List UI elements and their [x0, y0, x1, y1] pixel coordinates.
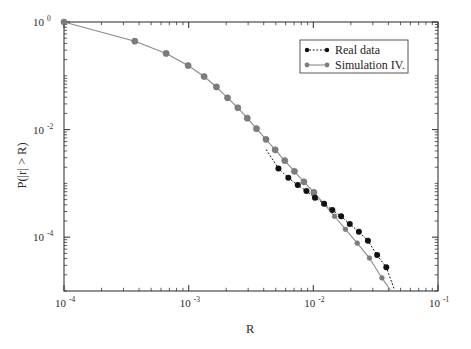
legend-group: Real dataSimulation IV. [300, 40, 408, 73]
sim-data-point [61, 19, 67, 25]
real-data-point [374, 252, 380, 258]
real-data-point [295, 182, 301, 188]
real-data-point [312, 195, 318, 201]
log-log-survival-plot: 10-410-310-210-110010-210-4 RP(|r| > R) … [0, 0, 471, 349]
sim-data-point [244, 115, 250, 121]
svg-text:10: 10 [180, 297, 192, 309]
sim-data-point [282, 158, 288, 164]
svg-text:10: 10 [429, 297, 441, 309]
y-axis-title: P(|r| > R) [15, 142, 29, 188]
real-data-point [338, 213, 344, 219]
sim-data-point [235, 105, 241, 111]
y-tick-label: 100 [33, 14, 51, 28]
sim-data-point [311, 189, 317, 195]
x-tick-label: 10-4 [55, 295, 75, 309]
svg-text:10: 10 [304, 297, 316, 309]
real-data-point [303, 188, 309, 194]
real-data-point [321, 201, 327, 207]
sim-data-point [263, 136, 269, 142]
svg-text:-4: -4 [69, 295, 75, 304]
sim-data-point [185, 62, 191, 68]
sim-data-point [332, 214, 337, 219]
svg-text:-2: -2 [318, 295, 324, 304]
y-tick-label: 10-2 [33, 122, 53, 136]
svg-text:-1: -1 [443, 295, 449, 304]
real-data-point [365, 238, 371, 244]
x-tick-label: 10-2 [304, 295, 324, 309]
x-tick-label: 10-3 [180, 295, 200, 309]
svg-text:10: 10 [55, 297, 67, 309]
sim-data-point [380, 276, 385, 281]
x-tick-label: 10-1 [429, 295, 449, 309]
real-data-point [356, 229, 362, 235]
svg-text:10: 10 [33, 16, 45, 28]
sim-data-point [272, 147, 278, 153]
svg-text:10: 10 [33, 124, 45, 136]
sim-data-point [291, 168, 297, 174]
sim-data-point [132, 38, 138, 44]
sim-data-point [201, 73, 207, 79]
axis-titles-group: RP(|r| > R) [15, 142, 255, 336]
real-data-point [329, 207, 335, 213]
sim-data-point [224, 95, 230, 101]
real-data-point [383, 264, 389, 270]
real-data-point [285, 175, 291, 181]
sim-data-point [367, 256, 372, 261]
sim-data-point [253, 126, 259, 132]
sim-data-point [343, 227, 348, 232]
sim-data-point [301, 179, 307, 185]
legend-label: Real data [335, 43, 381, 57]
svg-text:0: 0 [47, 14, 51, 23]
svg-text:-2: -2 [47, 122, 53, 131]
svg-text:-3: -3 [194, 295, 200, 304]
figure-container: 10-410-310-210-110010-210-4 RP(|r| > R) … [0, 0, 471, 349]
x-axis-title: R [246, 322, 255, 336]
real-data-point [275, 165, 281, 171]
svg-text:-4: -4 [47, 229, 53, 238]
y-tick-label: 10-4 [33, 229, 53, 243]
sim-data-point [355, 241, 360, 246]
svg-text:10: 10 [33, 231, 45, 243]
sim-data-point [163, 50, 169, 56]
sim-data-point [213, 84, 219, 90]
legend-label: Simulation IV. [335, 58, 405, 72]
real-data-point [347, 221, 353, 227]
series-real-data [266, 150, 394, 289]
